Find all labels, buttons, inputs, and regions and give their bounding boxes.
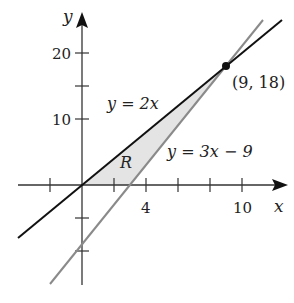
y-axis-label: y bbox=[62, 6, 73, 26]
y-tick-label-20: 20 bbox=[52, 45, 71, 63]
line1-label: y = 2x bbox=[106, 94, 159, 113]
region-label: R bbox=[119, 153, 132, 172]
x-tick-label-10: 10 bbox=[233, 199, 252, 217]
line2-label: y = 3x − 9 bbox=[166, 142, 253, 161]
graph: y x 20 10 4 10 y = 2x y = 3x − 9 R (9, 1… bbox=[0, 0, 294, 303]
intersection-point bbox=[222, 62, 230, 70]
x-axis-label: x bbox=[274, 196, 284, 216]
x-tick-label-4: 4 bbox=[141, 199, 151, 217]
point-label: (9, 18) bbox=[232, 73, 285, 92]
y-tick-label-10: 10 bbox=[52, 111, 71, 129]
